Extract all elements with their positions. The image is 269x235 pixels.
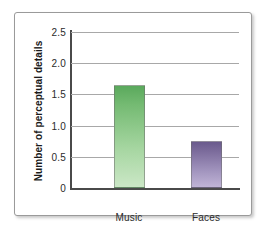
gridline-0: 0 — [71, 188, 239, 189]
gridline-2-5: 2.5 — [71, 32, 239, 33]
y-tick-label-1-5: 1.5 — [51, 89, 66, 100]
y-tick-label-2-0: 2.0 — [51, 58, 66, 69]
y-tick-label-1-0: 1.0 — [51, 120, 66, 131]
gridline-2-0: 2.0 — [71, 63, 239, 64]
y-tick-label-0-5: 0.5 — [51, 151, 66, 162]
x-category-label-music: Music — [94, 212, 164, 223]
x-category-label-faces: Faces — [171, 212, 241, 223]
y-tick-label-2-5: 2.5 — [51, 27, 66, 38]
figure-frame: Number of perceptual details 2.5 2.0 1.5… — [14, 12, 252, 216]
bar-music — [114, 85, 145, 188]
y-axis-title: Number of perceptual details — [33, 31, 47, 191]
gridline-1-0: 1.0 — [71, 126, 239, 127]
bar-faces — [191, 141, 222, 188]
plot-area: 2.5 2.0 1.5 1.0 0.5 0 Music Faces — [71, 32, 239, 188]
y-tick-label-0: 0 — [60, 183, 66, 194]
gridline-1-5: 1.5 — [71, 94, 239, 95]
